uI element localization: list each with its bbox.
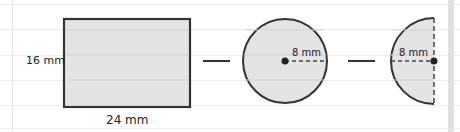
semicircle-radius-label: 8 mm <box>399 47 428 58</box>
semicircle-shape <box>391 18 438 104</box>
rect-height-label: 16 mm <box>26 54 65 67</box>
shapes-svg: 16 mm 24 mm 8 mm 8 mm <box>0 0 460 132</box>
rectangle-shape <box>64 19 190 107</box>
circle-shape <box>243 19 327 103</box>
diagram-canvas: 16 mm 24 mm 8 mm 8 mm <box>0 0 460 132</box>
rect-width-label: 24 mm <box>106 113 148 127</box>
circle-radius-label: 8 mm <box>292 47 321 58</box>
